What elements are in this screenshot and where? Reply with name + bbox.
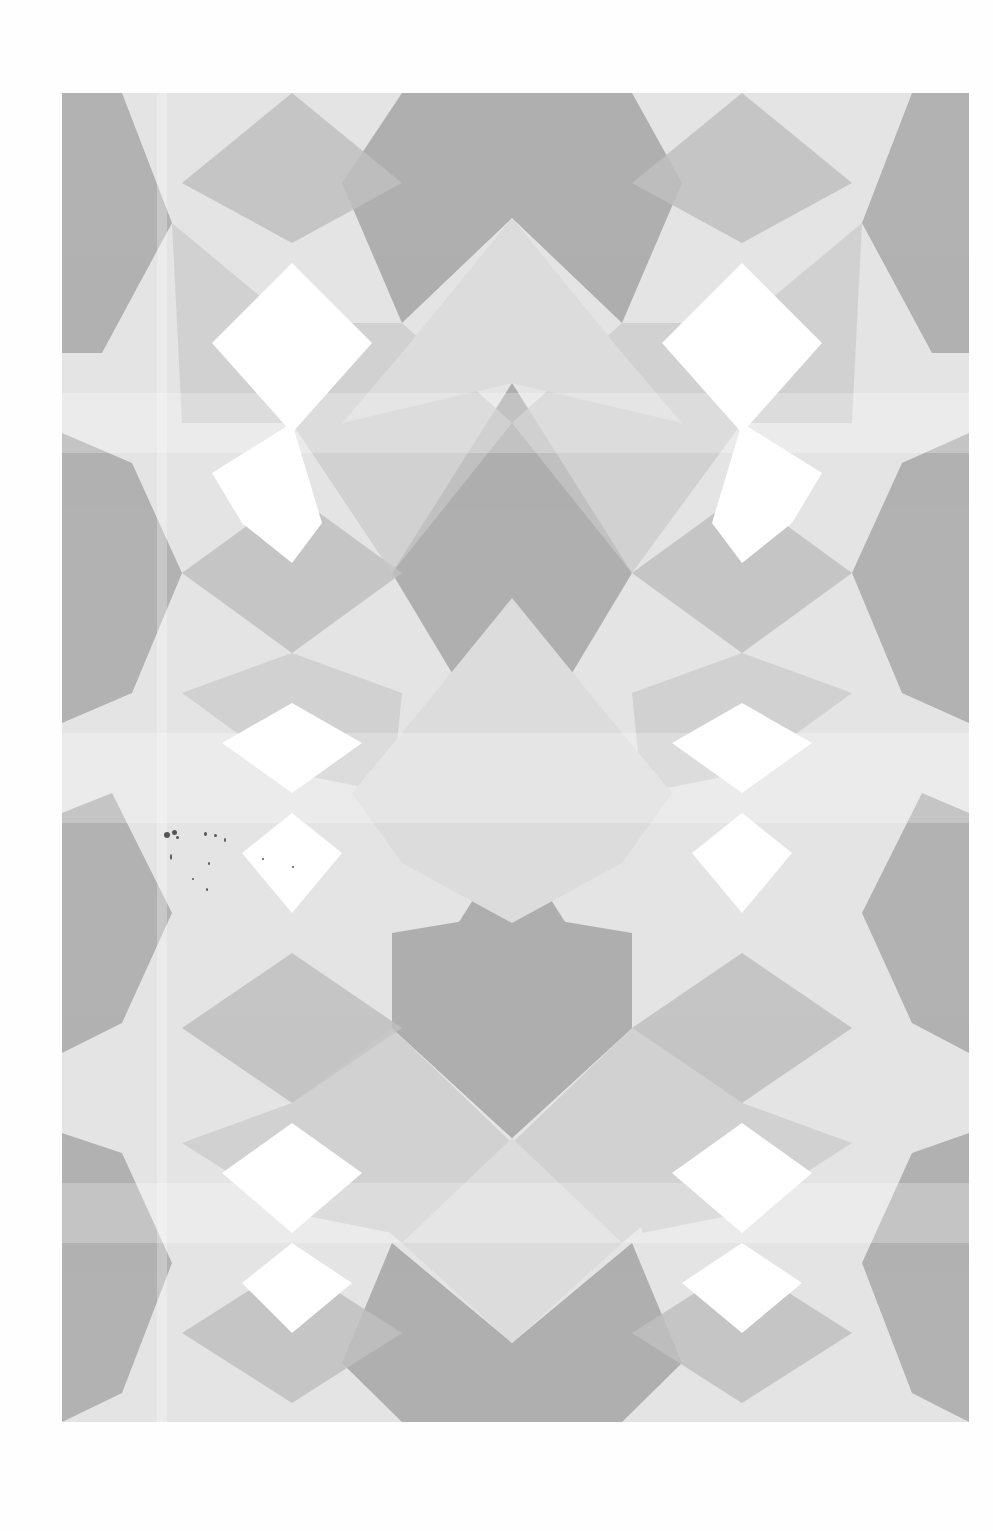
scanned-page: Symmetric geometric kaleidoscope pattern… — [0, 0, 993, 1531]
speckle — [292, 866, 294, 868]
speckle — [192, 878, 194, 880]
speckle — [204, 832, 207, 836]
scan-light-strip — [157, 93, 167, 1422]
speckle — [208, 862, 210, 865]
speckle — [262, 858, 264, 860]
speckle — [224, 838, 226, 842]
kaleidoscope-pattern — [62, 93, 969, 1422]
speckle — [170, 854, 172, 860]
speckle — [172, 830, 177, 835]
speckle — [214, 834, 217, 837]
speckle — [206, 888, 208, 891]
scan-speckle-artifacts — [162, 828, 342, 898]
speckle — [176, 836, 179, 839]
geometric-artwork — [62, 93, 969, 1422]
speckle — [164, 832, 170, 838]
